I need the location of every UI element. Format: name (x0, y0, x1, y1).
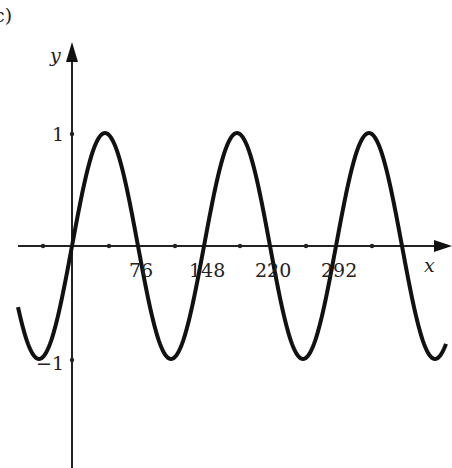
y-axis-arrow-icon (66, 42, 78, 62)
x-tick-label-76: 76 (129, 259, 153, 281)
x-tick-label-220: 220 (255, 259, 291, 281)
x-tick-label-292: 292 (321, 259, 357, 281)
x-tick-label-148: 148 (189, 259, 225, 281)
sine-chart: c) y x 1 −1 76 148 220 292 (0, 0, 452, 468)
y-tick-1 (70, 132, 74, 136)
y-tick-label-1: 1 (52, 123, 64, 145)
panel-label: c) (0, 4, 12, 26)
x-axis-arrow-icon (434, 240, 452, 252)
y-tick-neg1 (70, 358, 74, 362)
x-axis-label: x (424, 254, 435, 276)
y-tick-label-neg1: −1 (36, 352, 64, 374)
y-axis-label: y (49, 44, 61, 66)
